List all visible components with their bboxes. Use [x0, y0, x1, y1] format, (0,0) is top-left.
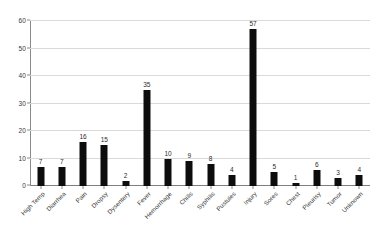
bar-value-label: 6	[315, 161, 319, 168]
bar-value-label: 7	[60, 158, 64, 165]
bar-group[interactable]: 8Syphilis	[200, 21, 221, 186]
bar-group[interactable]: 3Tumor	[328, 21, 349, 186]
bar-value-label: 8	[209, 155, 213, 162]
x-axis-tick-mark	[168, 186, 169, 189]
x-axis-tick-label: Injury	[242, 190, 258, 206]
bar-value-label: 3	[336, 169, 340, 176]
x-axis-tick-mark	[104, 186, 105, 189]
bar-chart: 01020304050607High Temp7Diarrhea16Pain15…	[0, 0, 382, 233]
bar[interactable]	[186, 161, 193, 186]
bar-group[interactable]: 57Injury	[243, 21, 264, 186]
bar[interactable]	[207, 164, 214, 186]
bar-value-label: 9	[188, 152, 192, 159]
bar[interactable]	[37, 167, 44, 186]
x-axis-tick-mark	[210, 186, 211, 189]
bar-group[interactable]: 10Hemorrhage	[158, 21, 179, 186]
bar-value-label: 15	[101, 136, 108, 143]
bar-value-label: 35	[143, 81, 150, 88]
bar-group[interactable]: 5Sores	[264, 21, 285, 186]
y-axis-tick-label: 60	[19, 17, 26, 24]
x-axis-tick-label: Diarrhea	[45, 190, 67, 212]
x-axis-tick-label: Sores	[263, 190, 280, 207]
y-axis-tick-label: 30	[19, 99, 26, 106]
bar-value-label: 7	[39, 158, 43, 165]
bar-value-label: 4	[358, 166, 362, 173]
x-axis-tick-label: Syphilis	[195, 190, 216, 211]
x-axis-tick-label: Fever	[135, 190, 151, 206]
bar-group[interactable]: 1Chest	[285, 21, 306, 186]
x-axis-tick-mark	[40, 186, 41, 189]
bar[interactable]	[271, 172, 278, 186]
bar-value-label: 57	[249, 20, 256, 27]
y-axis-tick-label: 40	[19, 72, 26, 79]
bar[interactable]	[228, 175, 235, 186]
bar-group[interactable]: 35Fever	[136, 21, 157, 186]
bar-group[interactable]: 2Dysentery	[115, 21, 136, 186]
x-axis-tick-mark	[338, 186, 339, 189]
x-axis-tick-label: Pustules	[215, 190, 237, 212]
plot-area: 01020304050607High Temp7Diarrhea16Pain15…	[30, 21, 370, 186]
x-axis-tick-label: Pleurisy	[301, 190, 322, 211]
bar-group[interactable]: 4Unknown	[349, 21, 370, 186]
y-axis-tick-label: 50	[19, 44, 26, 51]
bar[interactable]	[143, 90, 150, 186]
bar[interactable]	[313, 170, 320, 187]
y-axis-tick-label: 0	[22, 182, 26, 189]
bar-value-label: 2	[124, 172, 128, 179]
bar-group[interactable]: 7High Temp	[30, 21, 51, 186]
x-axis-tick-label: Unknown	[341, 190, 365, 214]
bar[interactable]	[58, 167, 65, 186]
x-axis-tick-label: Chest	[284, 190, 301, 207]
y-axis-tick-label: 10	[19, 154, 26, 161]
x-axis-tick-label: Dysentery	[105, 190, 130, 215]
bar-group[interactable]: 15Dropsy	[94, 21, 115, 186]
bar[interactable]	[356, 175, 363, 186]
x-axis-tick-label: Tumor	[325, 190, 343, 208]
bar[interactable]	[250, 29, 257, 186]
x-axis-tick-label: Chills	[178, 190, 194, 206]
y-axis-tick-label: 20	[19, 127, 26, 134]
bar-group[interactable]: 6Pleurisy	[306, 21, 327, 186]
x-axis-tick-mark	[274, 186, 275, 189]
bar[interactable]	[335, 178, 342, 186]
bar[interactable]	[80, 142, 87, 186]
x-axis-tick-mark	[189, 186, 190, 189]
x-axis-tick-label: Pain	[74, 190, 88, 204]
x-axis-tick-label: High Temp	[19, 190, 45, 216]
bar-value-label: 1	[294, 174, 298, 181]
bar-value-label: 10	[164, 150, 171, 157]
bar-group[interactable]: 9Chills	[179, 21, 200, 186]
bar-value-label: 16	[79, 133, 86, 140]
x-axis-tick-label: Dropsy	[90, 190, 109, 209]
bar-group[interactable]: 7Diarrhea	[51, 21, 72, 186]
bar-value-label: 5	[273, 163, 277, 170]
bar-group[interactable]: 16Pain	[73, 21, 94, 186]
bar[interactable]	[165, 159, 172, 187]
bar[interactable]	[101, 145, 108, 186]
bar-group[interactable]: 4Pustules	[221, 21, 242, 186]
bar-value-label: 4	[230, 166, 234, 173]
